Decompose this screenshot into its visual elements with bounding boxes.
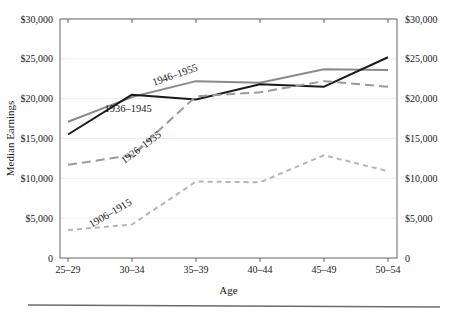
x-tick-label: 45–49 [312, 264, 337, 275]
series-label: 1936–1945 [104, 103, 151, 114]
y-tick-label-right: $15,000 [405, 133, 438, 144]
y-tick-label-left: $30,000 [21, 14, 54, 25]
median-earnings-line-chart: 0$5,000$10,000$15,000$20,000$25,000$30,0… [0, 0, 458, 314]
y-tick-label-left: $25,000 [21, 53, 54, 64]
x-axis-label: Age [219, 284, 237, 296]
x-tick-label: 50–54 [376, 264, 401, 275]
y-tick-label-left: $10,000 [21, 173, 54, 184]
y-tick-label-right: $25,000 [405, 53, 438, 64]
y-tick-label-left: $15,000 [21, 133, 54, 144]
x-tick-label: 35–39 [184, 264, 209, 275]
y-tick-label-left: $20,000 [21, 93, 54, 104]
y-axis-label: Median Earnings [4, 101, 16, 176]
y-tick-label-right: $20,000 [405, 93, 438, 104]
y-tick-label-right: $30,000 [405, 14, 438, 25]
y-tick-label-right: $5,000 [405, 213, 433, 224]
y-tick-label-left: $5,000 [26, 213, 54, 224]
y-tick-label-right: $10,000 [405, 173, 438, 184]
x-tick-label: 25–29 [56, 264, 81, 275]
chart-figure: 0$5,000$10,000$15,000$20,000$25,000$30,0… [0, 0, 458, 314]
y-tick-label-right: 0 [405, 253, 410, 264]
x-tick-label: 40–44 [248, 264, 273, 275]
y-tick-label-left: 0 [48, 253, 53, 264]
x-tick-label: 30–34 [120, 264, 145, 275]
